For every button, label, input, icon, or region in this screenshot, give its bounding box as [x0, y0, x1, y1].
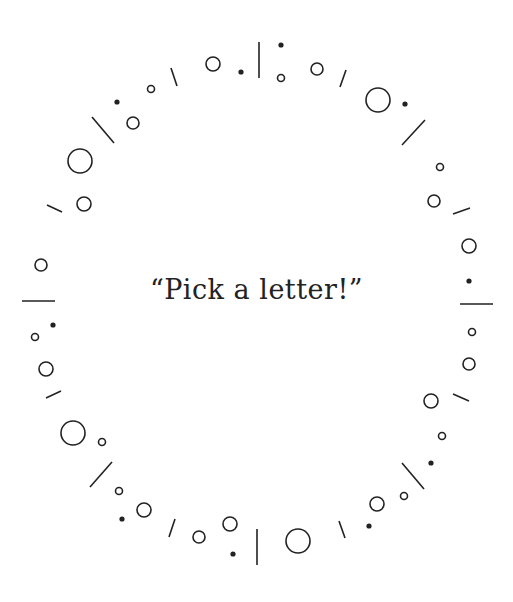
- dash-mark: [169, 519, 175, 537]
- ring-circle: [32, 334, 39, 341]
- ring-circle: [99, 439, 106, 446]
- ring-circle: [370, 497, 384, 511]
- ring-circle: [401, 493, 408, 500]
- ring-circle: [206, 57, 220, 71]
- ring-dot: [402, 101, 407, 106]
- ring-circle: [424, 394, 438, 408]
- pick-a-letter-caption: “Pick a letter!”: [0, 274, 513, 305]
- ring-dot: [119, 516, 124, 521]
- ring-circle: [68, 149, 92, 173]
- dash-mark: [402, 120, 425, 145]
- dash-mark: [171, 68, 177, 86]
- ring-circle: [469, 329, 476, 336]
- dash-mark: [90, 462, 112, 487]
- ring-circle: [463, 358, 475, 370]
- ring-circle: [127, 117, 139, 129]
- ring-dot: [114, 99, 119, 104]
- ring-circle: [116, 488, 123, 495]
- ring-circle: [278, 75, 285, 82]
- ring-dot: [238, 69, 243, 74]
- ring-circle: [366, 88, 390, 112]
- ring-circle: [439, 433, 446, 440]
- ring-circle: [311, 63, 323, 75]
- ring-dot: [366, 523, 371, 528]
- dash-mark: [46, 391, 61, 398]
- ring-circle: [137, 503, 151, 517]
- dash-mark: [453, 394, 469, 401]
- ring-dot: [50, 322, 55, 327]
- dash-mark: [92, 117, 114, 143]
- ring-dot: [230, 551, 235, 556]
- ring-dot: [278, 42, 283, 47]
- ring-circle: [148, 86, 155, 93]
- dash-mark: [402, 463, 424, 489]
- ring-circle: [286, 529, 310, 553]
- dash-mark: [47, 205, 62, 212]
- dash-mark: [453, 208, 470, 214]
- ring-circle: [223, 517, 237, 531]
- ring-circle: [61, 421, 85, 445]
- ring-circle: [437, 164, 444, 171]
- dash-mark: [339, 521, 345, 538]
- ring-circle: [39, 362, 53, 376]
- ring-circle: [77, 197, 91, 211]
- ring-dot: [428, 460, 433, 465]
- ring-circle: [35, 259, 47, 271]
- ring-circle: [428, 195, 440, 207]
- ring-circle: [462, 239, 476, 253]
- dash-mark: [340, 70, 346, 87]
- ring-circle: [193, 531, 205, 543]
